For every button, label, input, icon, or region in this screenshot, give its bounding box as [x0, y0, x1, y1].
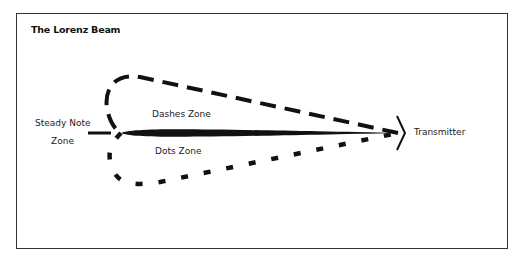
- dots-zone-label: Dots Zone: [155, 146, 201, 156]
- dots-lobe: [110, 133, 398, 184]
- transmitter-label: Transmitter: [414, 127, 465, 137]
- steady-note-label-line1: Steady Note: [35, 118, 91, 128]
- steady-note-label-line2: Zone: [51, 136, 74, 146]
- equisignal-beam: [121, 129, 400, 137]
- dashes-zone-label: Dashes Zone: [152, 109, 211, 119]
- dashes-lobe: [107, 76, 398, 133]
